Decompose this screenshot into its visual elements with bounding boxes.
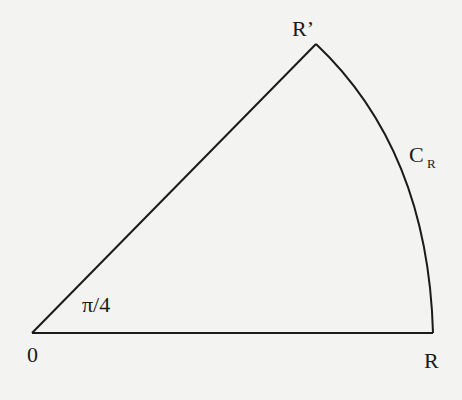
label-r: R: [424, 348, 439, 373]
sector-contour-diagram: R’ C R π/4 0 R: [0, 0, 462, 400]
label-arc-c: C: [409, 142, 424, 167]
label-origin: 0: [27, 342, 38, 367]
label-r-prime: R’: [292, 16, 314, 41]
background: [0, 0, 462, 400]
label-angle: π/4: [82, 292, 110, 317]
label-arc-subscript: R: [427, 156, 436, 171]
